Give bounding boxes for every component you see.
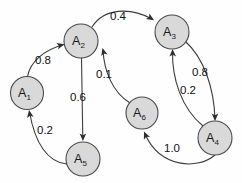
node-label-subscript: 6 [141,112,146,121]
graph-node[interactable]: A6 [126,97,158,129]
graph-node[interactable]: A1 [11,77,44,110]
graph-edge [185,41,218,121]
edge-weight-label: 1.0 [164,142,180,154]
node-label-subscript: 2 [80,40,85,49]
edge-weight-label: 0.4 [110,10,127,22]
edge-weight-label: 0.8 [192,66,208,78]
edge-weight-label: 0.6 [70,91,86,103]
edge-weight-label: 0.2 [37,124,53,136]
edge-weight-label: 0.8 [35,54,51,66]
arrow-head-icon [141,130,150,139]
edge-weight-label: 0.1 [96,68,112,80]
graph-node[interactable]: A5 [66,142,100,176]
node-label-subscript: 1 [26,92,31,101]
node-label-subscript: 3 [171,31,176,40]
graph-edge [26,109,67,164]
graph-node[interactable]: A3 [155,15,189,49]
node-label-subscript: 4 [214,137,219,146]
arrow-head-icon [146,13,156,23]
graph-diagram: 0.80.40.60.20.10.20.81.0 A1A2A3A4A5A6 [0,0,242,183]
graph-node[interactable]: A4 [198,121,232,155]
edge-weight-label: 0.2 [180,84,196,96]
edge-line [30,112,67,164]
graph-node[interactable]: A2 [64,24,98,58]
arrow-head-icon [26,109,34,118]
edge-line [185,41,215,119]
node-label-subscript: 5 [82,158,87,167]
